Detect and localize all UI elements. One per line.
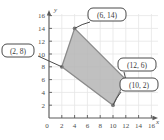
y-tick-label-12: 12	[38, 38, 46, 46]
x-axis-label: x	[155, 118, 160, 126]
x-tick-label-2: 2	[60, 122, 64, 130]
y-tick-label-2: 2	[42, 102, 46, 110]
x-tick-label-14: 14	[135, 122, 143, 130]
y-tick-label-6: 6	[42, 76, 46, 84]
x-tick-label-16: 16	[148, 122, 156, 130]
callout-10-2-label: (10, 2)	[129, 81, 149, 90]
callout-12-6: (12, 6)	[118, 58, 156, 71]
y-tick-labels: 2 4 6 8 10 12 14 16	[38, 12, 46, 110]
callout-6-14-label: (6, 14)	[97, 11, 117, 20]
y-tick-label-14: 14	[38, 25, 46, 33]
callout-10-2: (10, 2)	[120, 78, 158, 91]
y-tick-label-8: 8	[42, 63, 46, 71]
x-tick-labels: 0 2 4 6 8 10 12 14 16	[45, 122, 155, 130]
x-tick-label-4: 4	[73, 122, 77, 130]
coordinate-plane-figure: 0 2 4 6 8 10 12 14 16 2 4 6 8 10 12 14 1…	[0, 0, 164, 140]
x-tick-label-0: 0	[45, 122, 49, 130]
x-tick-label-8: 8	[98, 122, 102, 130]
callout-2-8: (2, 8)	[2, 44, 34, 57]
x-tick-label-10: 10	[110, 122, 118, 130]
callout-6-14: (6, 14)	[88, 8, 126, 21]
y-tick-label-16: 16	[38, 12, 46, 20]
y-tick-label-4: 4	[42, 89, 46, 97]
y-axis-arrow	[47, 10, 51, 16]
callout-12-6-label: (12, 6)	[127, 61, 147, 70]
callout-2-8-label: (2, 8)	[10, 47, 27, 56]
x-tick-label-12: 12	[122, 122, 130, 130]
x-tick-label-6: 6	[86, 122, 90, 130]
y-axis-label: y	[53, 6, 58, 14]
